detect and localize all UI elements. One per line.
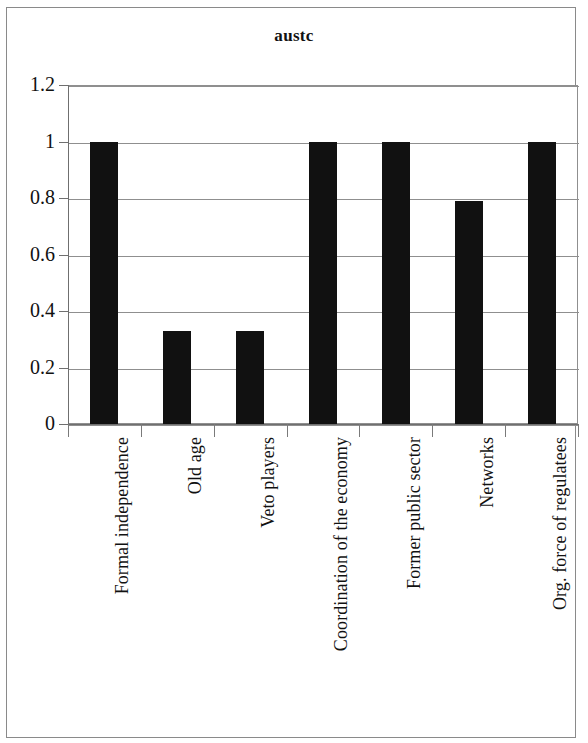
x-axis-category-label: Coordination of the economy bbox=[332, 437, 350, 651]
x-axis-category-label: Old age bbox=[186, 437, 204, 494]
y-axis-tick bbox=[59, 311, 68, 312]
x-axis-tick bbox=[505, 424, 506, 437]
bar bbox=[163, 331, 191, 424]
x-axis-tick bbox=[68, 424, 69, 437]
bar bbox=[309, 142, 337, 425]
y-axis-tick-label: 1.2 bbox=[0, 74, 55, 94]
x-axis-tick bbox=[432, 424, 433, 437]
x-axis-category-label: Veto players bbox=[259, 437, 277, 528]
x-axis-category-label: Org. force of regulatees bbox=[551, 437, 569, 610]
y-axis-tick-label: 0 bbox=[0, 413, 55, 433]
x-axis-tick bbox=[287, 424, 288, 437]
y-axis-tick bbox=[59, 424, 68, 425]
x-axis-tick bbox=[214, 424, 215, 437]
y-axis-tick bbox=[59, 368, 68, 369]
y-axis-tick-label: 0.2 bbox=[0, 357, 55, 377]
bar bbox=[382, 142, 410, 425]
y-axis-tick bbox=[59, 255, 68, 256]
y-axis-tick-label: 0.4 bbox=[0, 300, 55, 320]
y-axis-tick-label: 0.6 bbox=[0, 244, 55, 264]
y-axis-tick bbox=[59, 198, 68, 199]
bar bbox=[90, 142, 118, 425]
y-axis-tick bbox=[59, 142, 68, 143]
y-axis-tick-label: 1 bbox=[0, 131, 55, 151]
bar bbox=[455, 201, 483, 424]
y-axis-tick bbox=[59, 85, 68, 86]
chart-title: austc bbox=[0, 26, 588, 46]
gridline bbox=[69, 425, 579, 426]
x-axis-category-label: Networks bbox=[478, 437, 496, 508]
x-axis-tick bbox=[578, 424, 579, 437]
y-axis-tick-label: 0.8 bbox=[0, 187, 55, 207]
chart-figure: austc 00.20.40.60.811.2 Formal independe… bbox=[0, 0, 588, 743]
x-axis-tick bbox=[141, 424, 142, 437]
bar-series bbox=[68, 85, 578, 424]
x-axis bbox=[68, 424, 578, 425]
x-axis-category-label: Formal independence bbox=[113, 437, 131, 594]
x-axis-tick bbox=[359, 424, 360, 437]
x-axis-category-label: Former public sector bbox=[405, 437, 423, 589]
bar bbox=[528, 142, 556, 425]
bar bbox=[236, 331, 264, 424]
